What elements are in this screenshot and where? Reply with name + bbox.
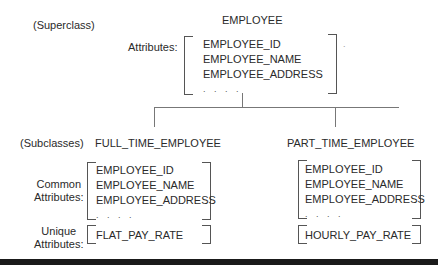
unique-attribute-item: HOURLY_PAY_RATE [305, 229, 411, 242]
connector-drop-right [335, 107, 336, 127]
common-attributes-label: Common Attributes: [34, 178, 84, 204]
common-attribute-list: EMPLOYEE_ID EMPLOYEE_NAME EMPLOYEE_ADDRE… [96, 163, 216, 223]
attribute-ellipsis: . . . . [203, 82, 323, 97]
unique-attributes-label: Unique Attributes: [34, 225, 84, 251]
common-attribute-list: EMPLOYEE_ID EMPLOYEE_NAME EMPLOYEE_ADDRE… [305, 162, 425, 222]
unique-label-line1: Unique [34, 225, 84, 238]
attribute-item: EMPLOYEE_NAME [203, 52, 323, 67]
bracket-right [328, 34, 337, 94]
bracket-right [202, 225, 211, 244]
connector-horizontal [154, 107, 399, 108]
attribute-item: EMPLOYEE_ID [305, 162, 425, 177]
attribute-item: EMPLOYEE_NAME [305, 177, 425, 192]
superclass-role-label: (Superclass) [33, 19, 95, 32]
common-label-line1: Common [34, 178, 84, 191]
unique-attribute-item: FLAT_PAY_RATE [96, 229, 183, 242]
stray-mark: . [343, 38, 346, 51]
connector-stem [242, 93, 243, 108]
subclass-name: PART_TIME_EMPLOYEE [287, 137, 414, 150]
connector-drop-left [154, 107, 155, 127]
superclass-attribute-list: EMPLOYEE_ID EMPLOYEE_NAME EMPLOYEE_ADDRE… [203, 37, 323, 97]
subclass-name: FULL_TIME_EMPLOYEE [95, 137, 221, 150]
attribute-item: EMPLOYEE_ID [203, 37, 323, 52]
unique-label-line2: Attributes: [34, 238, 84, 251]
common-label-line2: Attributes: [34, 191, 84, 204]
bracket-left [87, 162, 96, 220]
attribute-ellipsis: . . . . [305, 207, 425, 222]
attribute-item: EMPLOYEE_NAME [96, 178, 216, 193]
superclass-attributes-label: Attributes: [128, 41, 178, 54]
superclass-name: EMPLOYEE [222, 14, 283, 27]
attribute-item: EMPLOYEE_ADDRESS [305, 192, 425, 207]
bracket-left [87, 225, 96, 244]
attribute-ellipsis: . . . . [96, 208, 216, 223]
attribute-item: EMPLOYEE_ID [96, 163, 216, 178]
bracket-right [412, 225, 421, 244]
bottom-rule [0, 259, 438, 265]
bracket-left [184, 36, 193, 95]
attribute-item: EMPLOYEE_ADDRESS [96, 193, 216, 208]
attribute-item: EMPLOYEE_ADDRESS [203, 67, 323, 82]
subclasses-label: (Subclasses) [20, 137, 84, 150]
